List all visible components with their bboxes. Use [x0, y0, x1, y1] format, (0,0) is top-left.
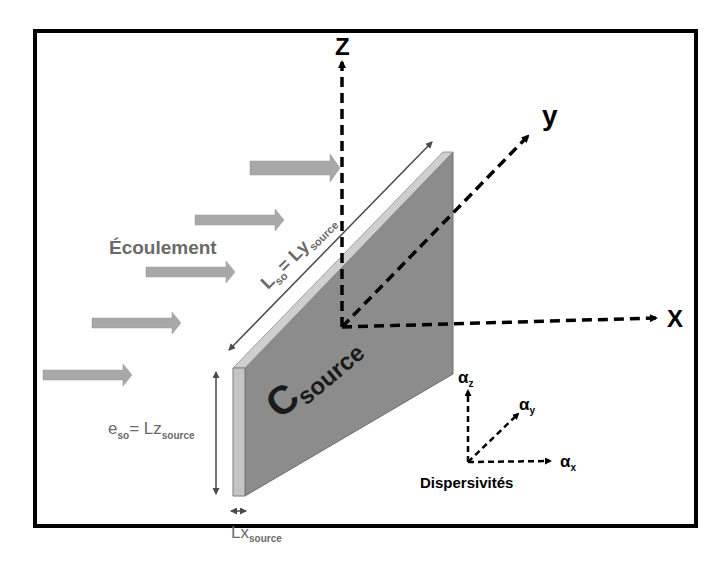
- transport-diagram: Z y X Lso= Lysource eso= Lzsource Lxsour…: [0, 0, 724, 571]
- flow-label: Écoulement: [109, 237, 217, 258]
- x-axis-label: X: [667, 305, 683, 332]
- dispersivities-title: Dispersivités: [420, 474, 513, 491]
- slab-front-edge: [233, 368, 245, 496]
- z-axis-label: Z: [335, 33, 350, 60]
- y-axis-label: y: [542, 100, 558, 131]
